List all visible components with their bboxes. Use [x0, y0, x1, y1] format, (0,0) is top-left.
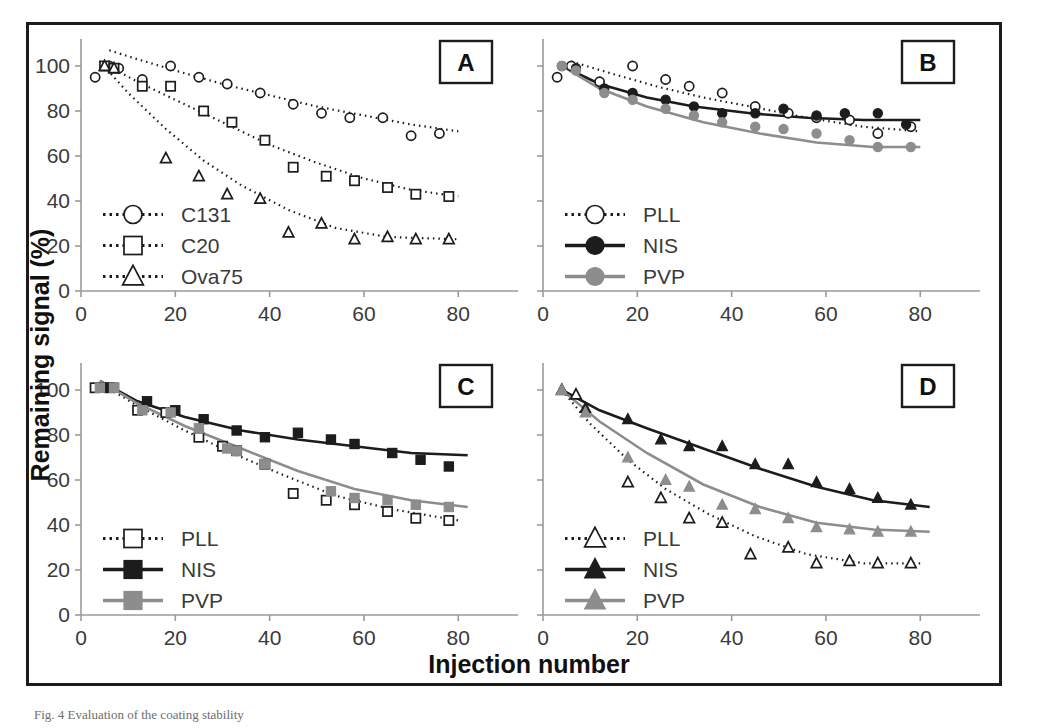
- trend-line-PVP: [562, 66, 920, 147]
- marker-square: [293, 428, 302, 437]
- marker-square: [444, 516, 453, 525]
- marker-square: [138, 82, 147, 91]
- marker-circle: [812, 129, 821, 138]
- marker-triangle: [571, 389, 582, 399]
- marker-square: [142, 397, 151, 406]
- marker-square: [322, 172, 331, 181]
- trend-line-NIS: [562, 66, 920, 120]
- marker-circle: [812, 111, 821, 120]
- marker-circle: [661, 104, 670, 113]
- trend-line-C131: [109, 50, 458, 131]
- marker-circle: [689, 111, 698, 120]
- x-tick-label: 0: [75, 302, 87, 325]
- legend-label-NIS: NIS: [643, 558, 678, 581]
- marker-square: [138, 406, 147, 415]
- trend-line-Ova75: [100, 62, 458, 240]
- legend-label-NIS: NIS: [643, 234, 678, 257]
- marker-triangle: [161, 153, 172, 163]
- legend-B: PLLNISPVP: [565, 203, 685, 288]
- x-tick-label: 80: [447, 302, 470, 325]
- panel-D: 020406080PLLNISPVPD: [537, 363, 980, 649]
- marker-square: [223, 444, 232, 453]
- marker-circle: [751, 122, 760, 131]
- marker-triangle: [123, 265, 144, 285]
- marker-triangle: [316, 218, 327, 228]
- y-tick-label: 40: [47, 189, 70, 212]
- marker-square: [416, 455, 425, 464]
- marker-circle: [718, 118, 727, 127]
- marker-circle: [902, 120, 911, 129]
- series-C131: [91, 61, 444, 140]
- marker-square: [232, 446, 241, 455]
- x-tick-label: 60: [352, 302, 375, 325]
- marker-square: [166, 408, 175, 417]
- marker-circle: [906, 142, 915, 151]
- marker-triangle: [222, 189, 233, 199]
- x-tick-label: 60: [814, 302, 837, 325]
- marker-triangle: [811, 558, 822, 568]
- panel-label-B: B: [919, 49, 936, 76]
- marker-square: [444, 502, 453, 511]
- marker-circle: [166, 61, 175, 70]
- trend-line-NIS: [100, 381, 468, 455]
- marker-circle: [435, 129, 444, 138]
- x-tick-label: 60: [352, 626, 375, 649]
- marker-triangle: [623, 477, 634, 487]
- y-tick-label: 40: [47, 513, 70, 536]
- x-tick-label: 0: [537, 626, 549, 649]
- panel-label-C: C: [457, 373, 474, 400]
- legend-label-NIS: NIS: [181, 558, 216, 581]
- marker-circle: [873, 109, 882, 118]
- marker-triangle: [745, 549, 756, 559]
- x-tick-label: 80: [909, 626, 932, 649]
- marker-circle: [194, 73, 203, 82]
- legend-C: PLLNISPVP: [103, 527, 223, 612]
- marker-square: [124, 592, 142, 610]
- marker-square: [383, 496, 392, 505]
- marker-circle: [661, 75, 670, 84]
- marker-square: [194, 433, 203, 442]
- x-tick-label: 20: [164, 302, 187, 325]
- marker-circle: [407, 131, 416, 140]
- series-PLL: [557, 384, 917, 567]
- marker-triangle: [283, 227, 294, 237]
- x-tick-label: 80: [909, 302, 932, 325]
- panel-C: 020406080100020406080PLLNISPVPC: [35, 363, 518, 649]
- marker-square: [289, 489, 298, 498]
- multi-panel-chart: 020406080100020406080C131C20Ova75A020406…: [29, 25, 999, 683]
- panel-label-D: D: [919, 373, 936, 400]
- marker-circle: [718, 88, 727, 97]
- marker-square: [260, 460, 269, 469]
- marker-circle: [840, 109, 849, 118]
- panel-A: 020406080100020406080C131C20Ova75A: [35, 39, 518, 325]
- panel-label-A: A: [457, 49, 474, 76]
- marker-circle: [124, 206, 142, 224]
- marker-square: [199, 106, 208, 115]
- marker-square: [109, 383, 118, 392]
- marker-triangle: [844, 483, 855, 493]
- marker-circle: [223, 79, 232, 88]
- series-NIS: [100, 383, 453, 471]
- marker-circle: [873, 142, 882, 151]
- marker-square: [260, 136, 269, 145]
- marker-circle: [779, 124, 788, 133]
- marker-square: [444, 192, 453, 201]
- y-tick-label: 100: [35, 54, 70, 77]
- trend-line-NIS: [562, 390, 930, 507]
- x-tick-label: 0: [537, 302, 549, 325]
- y-tick-label: 60: [47, 144, 70, 167]
- x-tick-label: 0: [75, 626, 87, 649]
- figure-caption: Fig. 4 Evaluation of the coating stabili…: [34, 707, 934, 723]
- marker-triangle: [844, 555, 855, 565]
- legend-label-C131: C131: [181, 203, 231, 226]
- marker-square: [411, 190, 420, 199]
- marker-square: [383, 183, 392, 192]
- x-tick-label: 40: [720, 302, 743, 325]
- x-tick-label: 40: [258, 302, 281, 325]
- legend-label-PLL: PLL: [643, 527, 680, 550]
- marker-triangle: [783, 459, 794, 469]
- marker-square: [95, 383, 104, 392]
- trend-line-PVP: [100, 381, 468, 507]
- legend-label-Ova75: Ova75: [181, 265, 243, 288]
- legend-A: C131C20Ova75: [103, 203, 243, 288]
